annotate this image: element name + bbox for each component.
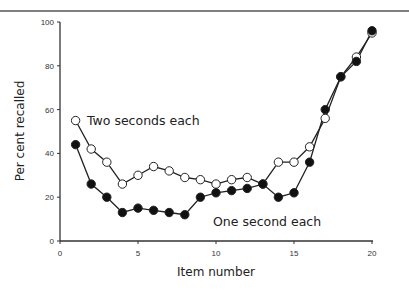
x-tick-label: 0	[58, 249, 63, 258]
filled-circle-marker	[212, 189, 220, 197]
open-circle-marker	[274, 158, 282, 166]
filled-circle-marker	[243, 184, 251, 192]
filled-circle-marker	[71, 140, 79, 148]
open-circle-marker	[71, 116, 79, 124]
filled-circle-marker	[305, 158, 313, 166]
open-circle-marker	[196, 175, 204, 183]
open-circle-marker	[134, 171, 142, 179]
filled-circle-marker	[134, 204, 142, 212]
filled-circle-marker	[118, 208, 126, 216]
y-axis-label: Per cent recalled	[13, 81, 27, 182]
filled-circle-marker	[149, 206, 157, 214]
open-circle-marker	[305, 143, 313, 151]
filled-circle-marker	[337, 73, 345, 81]
filled-circle-marker	[181, 211, 189, 219]
y-tick-label: 100	[41, 18, 55, 27]
x-tick-label: 10	[212, 249, 221, 258]
open-circle-marker	[321, 114, 329, 122]
filled-circle-marker	[290, 189, 298, 197]
open-circle-marker	[181, 173, 189, 181]
series-label-one-second: One second each	[213, 214, 321, 229]
x-axis-label: Item number	[177, 265, 255, 279]
line-chart: 05101520020406080100 Item number Per cen…	[0, 0, 409, 293]
open-circle-marker	[290, 158, 298, 166]
open-circle-marker	[87, 145, 95, 153]
filled-circle-marker	[103, 193, 111, 201]
y-tick-label: 40	[45, 149, 54, 158]
series-label-two-seconds: Two seconds each	[86, 113, 200, 128]
filled-circle-marker	[368, 27, 376, 35]
filled-circle-marker	[165, 208, 173, 216]
x-tick-label: 15	[290, 249, 299, 258]
y-tick-label: 20	[45, 193, 54, 202]
open-circle-marker	[212, 180, 220, 188]
axes: 05101520020406080100	[41, 18, 377, 258]
open-circle-marker	[227, 175, 235, 183]
open-circle-marker	[243, 173, 251, 181]
filled-circle-marker	[87, 180, 95, 188]
y-tick-label: 60	[45, 106, 54, 115]
x-tick-label: 20	[368, 249, 377, 258]
filled-circle-marker	[321, 105, 329, 113]
filled-circle-marker	[274, 193, 282, 201]
open-circle-marker	[149, 162, 157, 170]
open-circle-marker	[165, 167, 173, 175]
open-circle-marker	[118, 180, 126, 188]
open-circle-marker	[103, 158, 111, 166]
x-tick-label: 5	[136, 249, 141, 258]
y-tick-label: 0	[50, 237, 55, 246]
filled-circle-marker	[227, 186, 235, 194]
y-tick-label: 80	[45, 62, 54, 71]
filled-circle-marker	[196, 193, 204, 201]
filled-circle-marker	[352, 57, 360, 65]
filled-circle-marker	[259, 180, 267, 188]
